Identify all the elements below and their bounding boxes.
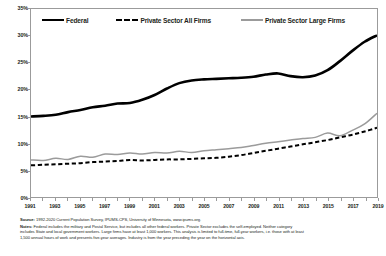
source-text: 1992-2020 Current Population Survey, IPU… [36, 217, 201, 222]
x-tick-label: 2013 [298, 203, 309, 209]
y-tick-label: 10% [18, 141, 29, 147]
x-tick-mark [42, 198, 43, 201]
y-tick-label: 35% [18, 5, 29, 11]
y-tick-label: 30% [18, 32, 29, 38]
notes-block: Notes: Federal includes the military and… [20, 224, 380, 240]
x-tick-mark [67, 198, 68, 201]
legend-item-federal: Federal [42, 17, 88, 24]
x-tick-label: 2003 [174, 203, 185, 209]
y-tick-label: 20% [18, 86, 29, 92]
y-tick-label: 15% [18, 114, 29, 120]
x-tick-label: 1995 [74, 203, 85, 209]
x-tick-mark [229, 198, 230, 201]
legend-label-federal: Federal [66, 17, 88, 24]
x-tick-label: 1993 [49, 203, 60, 209]
chart-page: 35%30%25%20%15%10%5%0% Federal Private S… [0, 0, 386, 256]
x-tick-mark [353, 198, 354, 201]
x-tick-mark [291, 198, 292, 201]
y-tick-label: 0% [20, 195, 28, 201]
x-tick-mark [216, 198, 217, 201]
x-tick-label: 2001 [149, 203, 160, 209]
y-axis: 35%30%25%20%15%10%5%0% [0, 0, 28, 206]
x-tick-mark [316, 198, 317, 201]
series-line-private-sector-large-firms [31, 113, 377, 160]
x-tick-mark [30, 198, 31, 201]
x-tick-mark [92, 198, 93, 201]
x-tick-mark [167, 198, 168, 201]
x-tick-label: 2017 [348, 203, 359, 209]
chart-legend: Federal Private Sector All Firms Private… [42, 13, 342, 27]
x-tick-mark [279, 198, 280, 201]
x-tick-mark [179, 198, 180, 201]
x-tick-label: 2011 [273, 203, 284, 209]
legend-swatch-gray-line-icon [241, 19, 263, 20]
x-tick-label: 1999 [124, 203, 135, 209]
x-tick-mark [378, 198, 379, 201]
x-tick-label: 1997 [99, 203, 110, 209]
source-label: Source: [20, 217, 35, 222]
x-tick-label: 2015 [323, 203, 334, 209]
x-tick-mark [204, 198, 205, 201]
footnotes: Source: 1992-2020 Current Population Sur… [20, 217, 380, 240]
x-tick-mark [254, 198, 255, 201]
series-line-federal [31, 35, 377, 116]
x-tick-label: 2009 [248, 203, 259, 209]
chart-svg [31, 9, 377, 197]
x-tick-mark [105, 198, 106, 201]
legend-label-private-all: Private Sector All Firms [140, 17, 211, 24]
x-tick-mark [142, 198, 143, 201]
y-tick-label: 25% [18, 59, 29, 65]
x-tick-label: 1991 [25, 203, 36, 209]
x-tick-mark [266, 198, 267, 201]
x-tick-mark [80, 198, 81, 201]
y-tick-label: 5% [20, 168, 28, 174]
legend-swatch-solid-line-icon [42, 19, 64, 22]
x-tick-mark [154, 198, 155, 201]
x-tick-mark [303, 198, 304, 201]
x-tick-mark [129, 198, 130, 201]
x-tick-label: 2007 [223, 203, 234, 209]
x-tick-mark [192, 198, 193, 201]
x-axis: 1991199319951997199920012003200520072009… [30, 198, 378, 214]
x-tick-mark [366, 198, 367, 201]
legend-label-private-large: Private Sector Large Firms [265, 17, 345, 24]
x-tick-label: 2005 [199, 203, 210, 209]
legend-item-private-all: Private Sector All Firms [116, 17, 211, 24]
source-line: Source: 1992-2020 Current Population Sur… [20, 217, 380, 223]
x-tick-mark [241, 198, 242, 201]
x-tick-mark [341, 198, 342, 201]
legend-item-private-large: Private Sector Large Firms [241, 17, 345, 24]
x-tick-mark [55, 198, 56, 201]
legend-swatch-dashed-line-icon [116, 19, 138, 21]
x-tick-mark [328, 198, 329, 201]
plot-area [30, 8, 378, 198]
x-tick-mark [117, 198, 118, 201]
x-tick-label: 2019 [373, 203, 384, 209]
notes-line-3: 1,500 annual hours of work and presents … [20, 235, 380, 240]
